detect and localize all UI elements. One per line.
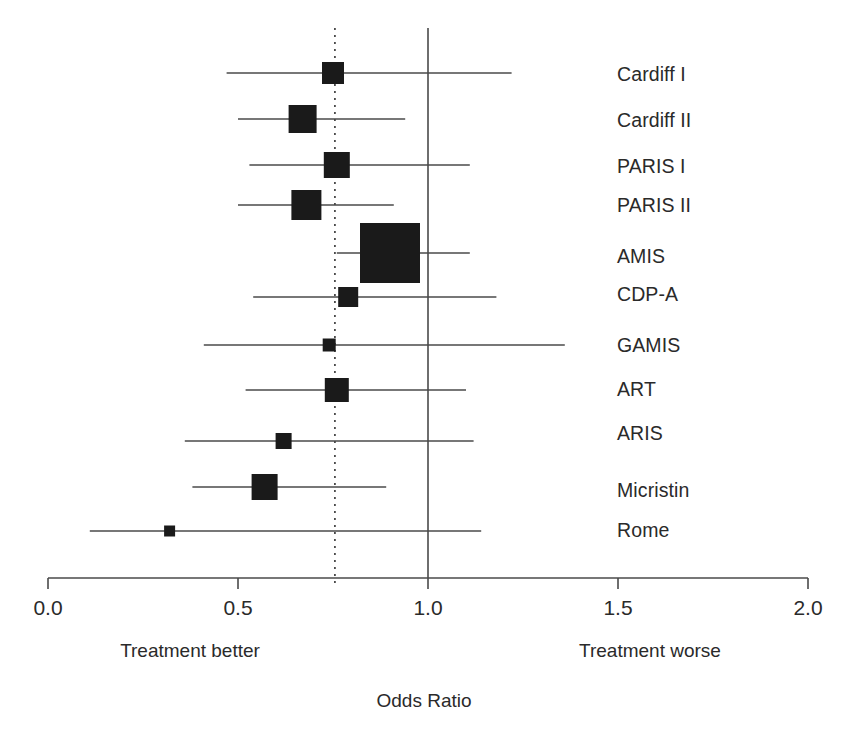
effect-size-box <box>323 339 336 352</box>
study-label: Cardiff I <box>617 63 686 86</box>
x-tick-label: 2.0 <box>793 596 822 620</box>
x-tick-label: 1.5 <box>603 596 632 620</box>
effect-size-box <box>276 433 292 449</box>
effect-size-box <box>164 526 175 537</box>
effect-size-box <box>338 287 358 307</box>
study-label: AMIS <box>617 245 665 268</box>
forest-plot-figure: Cardiff ICardiff IIPARIS IPARIS IIAMISCD… <box>0 0 845 735</box>
x-tick-label: 1.0 <box>413 596 442 620</box>
effect-size-box <box>291 190 321 220</box>
study-label: Rome <box>617 519 669 542</box>
effect-size-box <box>360 223 420 283</box>
study-label: ARIS <box>617 422 663 445</box>
x-tick-label: 0.0 <box>33 596 62 620</box>
study-label: PARIS I <box>617 155 686 178</box>
plot-area <box>0 0 845 735</box>
effect-size-box <box>325 378 349 402</box>
x-axis-title: Odds Ratio <box>376 690 471 712</box>
study-label: GAMIS <box>617 334 680 357</box>
study-label: ART <box>617 378 656 401</box>
effect-size-box <box>322 62 344 84</box>
forest-row <box>253 287 496 307</box>
treatment-better-note: Treatment better <box>120 640 260 662</box>
forest-row <box>337 223 470 283</box>
study-label: Micristin <box>617 479 689 502</box>
study-label: PARIS II <box>617 194 691 217</box>
forest-row <box>249 152 469 178</box>
treatment-worse-note: Treatment worse <box>579 640 721 662</box>
effect-size-box <box>252 474 278 500</box>
forest-row <box>238 190 394 220</box>
forest-row <box>90 526 481 537</box>
x-tick-label: 0.5 <box>223 596 252 620</box>
forest-plot-canvas <box>0 0 845 735</box>
study-label: Cardiff II <box>617 109 691 132</box>
effect-size-box <box>289 105 317 133</box>
forest-row <box>246 378 466 402</box>
study-label: CDP-A <box>617 283 678 306</box>
forest-row <box>238 105 405 133</box>
forest-row <box>204 339 565 352</box>
effect-size-box <box>324 152 350 178</box>
forest-row <box>192 474 386 500</box>
forest-row <box>185 433 474 449</box>
forest-row <box>227 62 512 84</box>
